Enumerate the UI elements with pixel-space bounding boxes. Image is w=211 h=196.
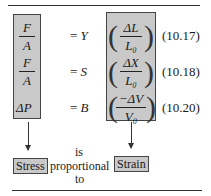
eq1-lhs-denominator: A xyxy=(23,38,31,53)
eq1-rhs-fraction: ΔL L₀ xyxy=(120,20,142,53)
eq1-rhs-numerator: ΔL xyxy=(124,20,139,35)
stress-tag: Stress xyxy=(13,158,48,174)
eq1-right-paren: ) xyxy=(144,21,154,51)
eq1-modulus: Y xyxy=(81,28,88,43)
caption-is: is xyxy=(75,145,83,160)
top-rule xyxy=(8,5,200,6)
eq2-number: (10.18) xyxy=(162,64,200,80)
stress-down-arrow-icon xyxy=(28,122,29,150)
eq2-lhs-fraction: F A xyxy=(19,55,35,88)
eq3-modulus: B xyxy=(81,100,89,115)
eq2-lhs-denominator: A xyxy=(23,73,31,88)
eq3-rhs-fraction: −ΔV V₀ xyxy=(116,91,146,124)
eq3-rhs-numerator: −ΔV xyxy=(119,91,143,106)
eq3-lhs: ΔP xyxy=(16,100,32,116)
eq3-equals: = B xyxy=(70,100,89,116)
eq2-equals: = S xyxy=(70,64,87,80)
bottom-rule xyxy=(12,190,202,191)
eq1-lhs-fraction: F A xyxy=(19,20,35,53)
eq2-left-paren: ( xyxy=(108,57,118,87)
eq3-right-paren: ) xyxy=(146,92,156,122)
eq1-lhs-numerator: F xyxy=(23,20,31,35)
eq2-rhs-fraction: ΔX L₀ xyxy=(120,55,142,88)
strain-down-arrow-icon xyxy=(131,122,132,148)
eq2-rhs-denominator: L₀ xyxy=(125,73,137,88)
eq1-left-paren: ( xyxy=(108,21,118,51)
eq3-number: (10.20) xyxy=(162,100,200,116)
eq2-right-paren: ) xyxy=(144,57,154,87)
eq1-number: (10.17) xyxy=(162,28,200,44)
eq1-equals: = Y xyxy=(70,28,88,44)
caption-to: to xyxy=(75,172,84,187)
eq2-rhs-numerator: ΔX xyxy=(123,55,139,70)
eq2-modulus: S xyxy=(81,64,88,79)
strain-tag: Strain xyxy=(114,156,149,172)
eq2-lhs-numerator: F xyxy=(23,55,31,70)
eq1-rhs-denominator: L₀ xyxy=(125,38,137,53)
